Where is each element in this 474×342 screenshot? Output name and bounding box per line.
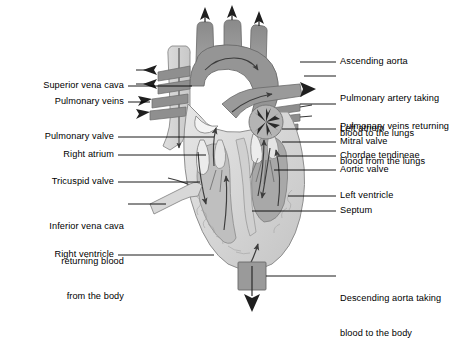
label-inferior-vena-cava: Inferior vena cava returning blood from …	[4, 198, 124, 326]
label-mitral-valve: Mitral valve	[340, 136, 388, 148]
label-superior-vena-cava: Superior vena cava	[8, 80, 124, 92]
descending-aorta-arrow	[244, 294, 260, 312]
label-tricuspid-valve: Tricuspid valve	[4, 176, 114, 188]
label-inferior-vena-cava-line1: Inferior vena cava	[4, 221, 124, 233]
label-right-ventricle: Right ventricle	[4, 249, 114, 261]
label-pulmonary-valve: Pulmonary valve	[4, 131, 114, 143]
descending-aorta-vessel	[238, 262, 266, 312]
label-pulmonary-veins: Pulmonary veins	[8, 96, 124, 108]
label-right-atrium: Right atrium	[4, 149, 114, 161]
pv-stub-arrow-4	[136, 109, 150, 119]
label-chordae-tendineae: Chordae tendineae	[340, 150, 420, 162]
label-septum: Septum	[340, 205, 372, 217]
label-inferior-vena-cava-line3: from the body	[4, 291, 124, 303]
pulmonary-artery-arrow	[300, 82, 316, 97]
pv-stub-arrow-3	[138, 96, 152, 106]
label-descending-aorta-line2: blood to the body	[340, 328, 441, 340]
label-descending-aorta: Descending aorta taking blood to the bod…	[340, 270, 441, 342]
label-left-atrium: Left atrium	[340, 123, 384, 135]
label-descending-aorta-line1: Descending aorta taking	[340, 293, 441, 305]
label-aortic-valve: Aortic valve	[340, 164, 389, 176]
label-left-ventricle: Left ventricle	[340, 190, 393, 202]
label-ascending-aorta: Ascending aorta	[340, 56, 408, 68]
tricuspid-valve-leaflet-2	[214, 140, 225, 169]
